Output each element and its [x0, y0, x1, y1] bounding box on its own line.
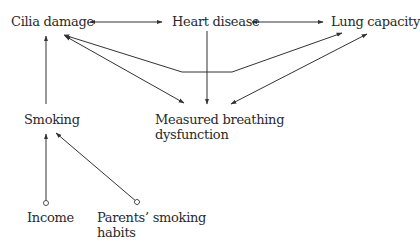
- node-heart-disease: Heart disease: [172, 14, 259, 29]
- node-label: Income: [27, 210, 74, 225]
- node-lung-capacity: Lung capacity: [331, 14, 420, 29]
- node-measured-breathing-dysfunction: Measured breathing dysfunction: [155, 112, 284, 142]
- node-smoking: Smoking: [24, 112, 80, 127]
- node-label-line1: Measured breathing: [155, 112, 284, 127]
- node-label: Heart disease: [172, 14, 259, 29]
- node-label-line2: habits: [97, 225, 206, 240]
- node-label: Cilia damage: [11, 14, 94, 29]
- node-label: Lung capacity: [331, 14, 420, 29]
- node-label: Smoking: [24, 112, 80, 127]
- edge-lung-breathing: [231, 34, 367, 104]
- edge-cilia-breathing: [65, 36, 184, 103]
- node-label-line1: Parents’ smoking: [97, 210, 206, 225]
- node-cilia-damage: Cilia damage: [11, 14, 94, 29]
- node-parents-smoking-habits: Parents’ smoking habits: [97, 210, 206, 240]
- node-label-line2: dysfunction: [155, 127, 284, 142]
- edge-cilia-lung: [64, 33, 342, 72]
- node-income: Income: [27, 210, 74, 225]
- edge-parents-smoking: [56, 133, 137, 202]
